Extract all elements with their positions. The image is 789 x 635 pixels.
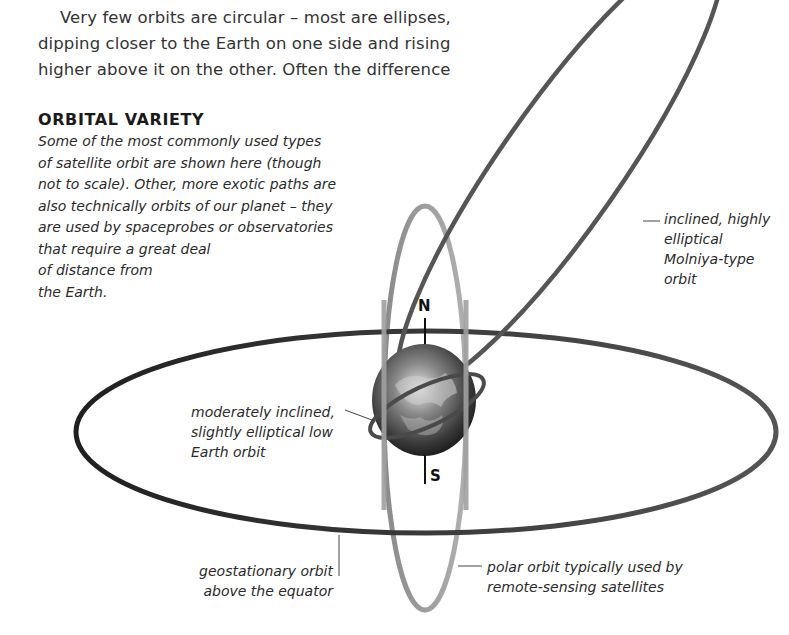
label-line: slightly elliptical low [191, 422, 335, 442]
orbit-diagram [0, 0, 789, 635]
label-line: inclined, highly [664, 209, 770, 229]
label-line: orbit [664, 269, 770, 289]
label-line: remote-sensing satellites [487, 577, 683, 597]
label-line: moderately inclined, [191, 402, 335, 422]
polar-orbit-label: polar orbit typically used by remote-sen… [487, 557, 683, 597]
geostationary-orbit-label: geostationary orbit above the equator [190, 561, 333, 601]
low-earth-leader-line [345, 410, 372, 420]
south-pole-label: S [430, 467, 441, 485]
low-earth-orbit-label: moderately inclined, slightly elliptical… [191, 402, 335, 462]
molniya-orbit-label: inclined, highly elliptical Molniya-type… [664, 209, 770, 289]
label-line: Molniya-type [664, 249, 770, 269]
label-line: Earth orbit [191, 442, 335, 462]
north-pole-label: N [418, 297, 431, 315]
label-line: geostationary orbit [190, 561, 333, 581]
label-line: elliptical [664, 229, 770, 249]
label-line: polar orbit typically used by [487, 557, 683, 577]
label-line: above the equator [190, 581, 333, 601]
